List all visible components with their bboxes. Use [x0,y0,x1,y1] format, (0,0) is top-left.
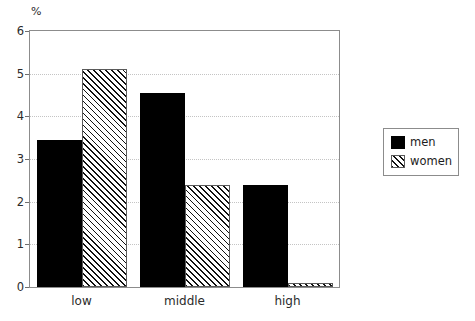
legend-label-women: women [410,155,452,168]
y-axis-tick-label: 5 [2,67,24,81]
legend-item-men: men [391,136,436,149]
bar-middle-women [185,185,230,287]
y-axis-tick-mark [25,244,29,245]
plot-area [29,30,340,288]
y-axis-tick-mark [25,31,29,32]
bar-chart-figure: % 0123456lowmiddlehigh men women [0,0,475,321]
y-axis-tick-mark [25,159,29,160]
y-axis-unit-label: % [31,5,42,18]
legend-item-women: women [391,155,452,168]
x-axis-tick-label-high: high [274,294,300,308]
x-axis-tick-label-low: low [71,294,92,308]
y-axis-tick-mark [25,202,29,203]
chart-legend: men women [383,128,459,176]
bar-middle-men [140,93,185,287]
bar-low-men [37,140,82,287]
gridline [30,116,339,117]
y-axis-tick-mark [25,287,29,288]
bar-high-men [243,185,288,287]
gridline [30,74,339,75]
y-axis-tick-label: 6 [2,24,24,38]
bar-low-women [82,69,127,287]
legend-label-men: men [410,136,436,149]
y-axis-tick-mark [25,74,29,75]
x-axis-tick-label-middle: middle [164,294,205,308]
legend-swatch-men-icon [391,136,405,149]
bar-high-women [288,283,333,287]
y-axis-tick-label: 2 [2,195,24,209]
y-axis-tick-label: 4 [2,109,24,123]
y-axis-tick-label: 3 [2,152,24,166]
y-axis-tick-label: 0 [2,280,24,294]
y-axis-tick-mark [25,116,29,117]
legend-swatch-women-icon [391,155,405,168]
y-axis-tick-label: 1 [2,237,24,251]
plot-inner [30,31,339,287]
